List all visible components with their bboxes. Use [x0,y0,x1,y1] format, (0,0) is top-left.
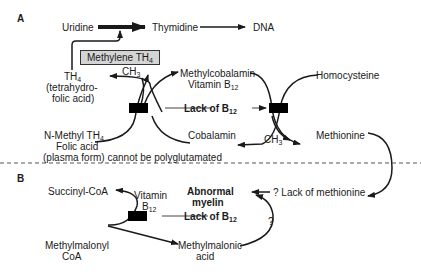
folic-acid-label: Folic acid [56,141,98,152]
ch3-bottom-label: CH3 [264,134,282,145]
b12-label: B12 [142,201,156,212]
block-right [269,103,288,113]
ch3-top-label: CH3 [122,66,140,77]
panel-a-label: A [17,13,24,24]
cobalamin-label: Cobalamin [188,130,236,141]
vitamin-b12-label: Vitamin B12 [188,79,238,90]
plasma-form-label: (plasma form) cannot be polyglutamated [43,152,222,163]
lack-b12-label-a: Lack of B12 [184,103,237,114]
th4-label: TH4 [64,71,81,82]
dna-label: DNA [253,22,274,33]
th4-desc-1: (tetrahydro- [46,82,98,93]
methylmalonyl-label-2: CoA [62,251,81,262]
n-methyl-th4-label: N-Methyl TH4 [44,130,104,141]
abnormal-label: Abnormal [187,186,234,197]
methionine-label: Methionine [316,130,365,141]
methylmalonic-label-2: acid [196,251,214,262]
block-left [129,103,148,113]
homocysteine-label: Homocysteine [316,70,379,81]
panel-b-label: B [17,173,24,184]
methylmalonic-label-1: Methylmalonic [178,240,242,251]
question-label: ? [268,216,274,227]
succinyl-coa-label: Succinyl-CoA [48,186,108,197]
vitamin-label: Vitamin [134,190,167,201]
methylcobalamin-label: Methylcobalamin [180,68,255,79]
methylene-th4-box: Methylene TH4 [80,50,160,65]
thymidine-label: Thymidine [152,22,198,33]
th4-desc-2: folic acid) [52,93,94,104]
uridine-label: Uridine [62,22,94,33]
myelin-label: myelin [192,197,224,208]
block-b [128,211,147,221]
lack-b12-label-b: Lack of B12 [184,211,237,222]
lack-methionine-label: ? Lack of methionine [273,187,365,198]
methylmalonyl-label-1: Methylmalonyl [45,240,109,251]
methylene-th4-text: Methylene TH [87,52,149,63]
